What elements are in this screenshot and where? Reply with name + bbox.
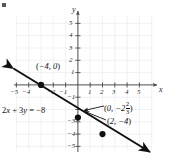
point-label-x-intercept-close: ) [57, 61, 60, 71]
point-label-third-close: ) [128, 116, 131, 126]
point-y-intercept [75, 115, 81, 121]
xtick-label-neg5: −5 [10, 89, 18, 96]
equation-var-y: y [23, 105, 27, 115]
equation-plus: + [12, 105, 17, 115]
point-label-x-intercept: (−4, 0) [36, 62, 60, 71]
ytick-label-neg4: −4 [67, 131, 75, 138]
point-label-y-intercept-x: 0, [107, 103, 113, 113]
ytick-label-1: 1 [71, 69, 75, 76]
point-label-third-y: −4 [118, 116, 128, 126]
xtick-label-5: 5 [137, 89, 141, 96]
graph-figure: −5 −4 −2 −1 1 2 3 4 5 5 4 3 2 1 −1 −3 −4… [0, 0, 170, 163]
ytick-label-4: 4 [69, 32, 73, 39]
coordinate-plane-svg [0, 0, 170, 163]
ytick-label-neg5: −5 [67, 143, 75, 150]
point-label-y-intercept-close: ) [130, 103, 133, 113]
y-axis-label: y [72, 6, 76, 14]
ytick-label-5: 5 [69, 20, 73, 27]
point-label-x-intercept-x: −4, [39, 61, 51, 71]
point-label-y-intercept: (0, −223) [104, 101, 133, 115]
ytick-label-neg3: −3 [67, 118, 75, 125]
xtick-label-3: 3 [112, 89, 116, 96]
ytick-label-2: 2 [69, 57, 73, 64]
equation-var-x: x [6, 105, 10, 115]
equation-rhs: −8 [36, 105, 45, 115]
ytick-label-neg1: −1 [67, 94, 75, 101]
xtick-label-2: 2 [100, 89, 104, 96]
point-x-intercept [38, 82, 44, 88]
xtick-label-neg1: −1 [59, 89, 67, 96]
xtick-label-4: 4 [125, 89, 129, 96]
ytick-label-3: 3 [69, 45, 73, 52]
equation-label: 2x + 3y = −8 [2, 106, 45, 115]
xtick-label-1: 1 [88, 89, 92, 96]
point-third [99, 131, 105, 137]
point-label-third-x: 2, [110, 116, 116, 126]
point-label-y-intercept-y-whole: −2 [115, 103, 125, 113]
xtick-label-neg4: −4 [22, 89, 30, 96]
xtick-label-neg2: −2 [47, 89, 55, 96]
equation-equals: = [29, 105, 34, 115]
x-axis-label: x [159, 86, 163, 94]
point-label-third: (2, −4) [107, 117, 131, 126]
